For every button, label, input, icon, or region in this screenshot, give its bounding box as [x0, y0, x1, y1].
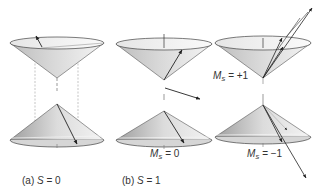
upper-cone	[10, 36, 104, 78]
panel-b-ms0	[116, 34, 212, 149]
label-ms-plus1: MS = +1	[213, 70, 248, 82]
resultant-vector-arrow	[165, 88, 200, 99]
lower-cone	[215, 94, 311, 178]
lower-cone	[116, 111, 212, 149]
label-ms-minus1: MS = −1	[247, 148, 282, 160]
lower-cone	[10, 104, 104, 148]
spin-vector-cone-diagram	[0, 0, 321, 193]
label-ms-0: MS = 0	[150, 148, 179, 160]
caption-b: (b) S = 1	[122, 175, 161, 186]
caption-a: (a) S = 0	[22, 175, 61, 186]
upper-cone	[116, 34, 212, 80]
panel-b-ms-minus1	[215, 94, 311, 178]
panel-a-singlet	[10, 36, 104, 148]
